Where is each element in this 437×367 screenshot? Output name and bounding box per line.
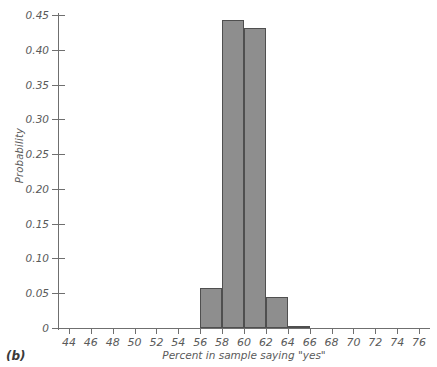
- x-axis-tick-label: 76: [412, 336, 426, 349]
- y-axis-tick-label: 0.45: [26, 9, 49, 21]
- histogram-bar: [266, 297, 288, 328]
- x-axis-tick: [91, 328, 92, 334]
- y-axis-tick-inner: [59, 50, 65, 51]
- x-axis-tick-label: 46: [84, 336, 98, 349]
- histogram-bar: [222, 20, 244, 328]
- x-axis-tick: [397, 328, 398, 334]
- y-axis-tick-inner: [59, 15, 65, 16]
- x-axis-tick: [135, 328, 136, 334]
- histogram-bar: [288, 326, 310, 328]
- x-axis-tick: [156, 328, 157, 334]
- x-axis-tick: [222, 328, 223, 334]
- y-axis-tick-inner: [59, 224, 65, 225]
- y-axis-tick-inner: [59, 189, 65, 190]
- histogram-bar: [244, 28, 266, 328]
- x-axis-tick-label: 54: [171, 336, 185, 349]
- y-axis-tick: [52, 293, 58, 294]
- x-axis-tick-label: 74: [390, 336, 404, 349]
- panel-label: (b): [6, 349, 26, 363]
- x-axis-tick: [310, 328, 311, 334]
- x-axis-tick-label: 58: [215, 336, 229, 349]
- y-axis-tick-label: 0.05: [26, 287, 49, 299]
- x-axis-tick-label: 66: [303, 336, 317, 349]
- y-axis-tick-label: 0.30: [26, 113, 49, 125]
- plot-area: 00.050.100.150.200.250.300.350.400.45444…: [58, 15, 430, 328]
- y-axis-tick: [52, 50, 58, 51]
- y-axis-tick: [52, 85, 58, 86]
- x-axis-tick-label: 52: [149, 336, 163, 349]
- histogram-figure: Probability 00.050.100.150.200.250.300.3…: [0, 0, 437, 367]
- x-axis-tick-label: 48: [106, 336, 120, 349]
- y-axis-tick-label: 0.35: [26, 79, 49, 91]
- y-axis-tick: [52, 224, 58, 225]
- y-axis-title: Probability: [14, 101, 25, 211]
- x-axis-title: Percent in sample saying "yes": [58, 349, 430, 361]
- x-axis-tick: [419, 328, 420, 334]
- x-axis-tick: [69, 328, 70, 334]
- x-axis-tick: [288, 328, 289, 334]
- x-axis-tick: [200, 328, 201, 334]
- y-axis-tick: [52, 15, 58, 16]
- histogram-bar: [200, 288, 222, 328]
- x-axis-tick-label: 60: [237, 336, 251, 349]
- y-axis-tick: [52, 258, 58, 259]
- y-axis-tick-inner: [59, 154, 65, 155]
- y-axis-tick: [52, 328, 58, 329]
- x-axis-tick-label: 62: [259, 336, 273, 349]
- x-axis-tick: [266, 328, 267, 334]
- y-axis-tick-inner: [59, 293, 65, 294]
- y-axis-tick-label: 0.10: [26, 252, 49, 264]
- x-axis-tick: [244, 328, 245, 334]
- y-axis-tick: [52, 154, 58, 155]
- x-axis-tick-label: 70: [346, 336, 360, 349]
- y-axis-tick: [52, 119, 58, 120]
- y-axis-tick-label: 0.15: [26, 218, 49, 230]
- x-axis-tick-label: 68: [325, 336, 339, 349]
- y-axis-tick-label: 0.25: [26, 148, 49, 160]
- y-axis-tick-label: 0: [42, 322, 49, 334]
- x-axis-tick: [113, 328, 114, 334]
- x-axis-tick: [178, 328, 179, 334]
- y-axis-tick-inner: [59, 85, 65, 86]
- x-axis-tick: [332, 328, 333, 334]
- x-axis-tick-label: 44: [62, 336, 76, 349]
- x-axis-tick-label: 56: [193, 336, 207, 349]
- x-axis-tick-label: 72: [368, 336, 382, 349]
- x-axis-tick-label: 64: [281, 336, 295, 349]
- x-axis-tick-label: 50: [128, 336, 142, 349]
- y-axis-tick-inner: [59, 328, 65, 329]
- y-axis-tick: [52, 189, 58, 190]
- y-axis-tick-label: 0.20: [26, 183, 49, 195]
- x-axis-tick: [375, 328, 376, 334]
- y-axis-tick-label: 0.40: [26, 44, 49, 56]
- y-axis-tick-inner: [59, 258, 65, 259]
- x-axis-tick: [353, 328, 354, 334]
- y-axis-tick-inner: [59, 119, 65, 120]
